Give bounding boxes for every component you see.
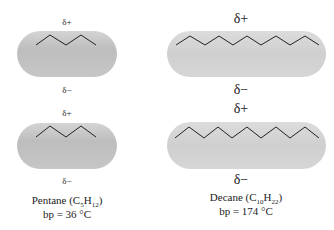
partial-negative-label: δ− [226, 172, 256, 188]
decane-boiling-point: bp = 174 °C [196, 205, 296, 217]
decane-formula: Decane (C10H22) [196, 191, 296, 206]
